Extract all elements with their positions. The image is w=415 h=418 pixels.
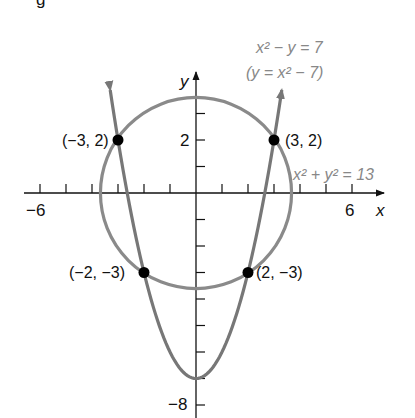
parabola-equation-label: x² − y = 7 xyxy=(255,39,324,56)
point-label-neg2-neg3: (−2, −3) xyxy=(69,264,125,281)
partial-caption-glyph: g xyxy=(36,0,45,9)
intersection-point xyxy=(139,267,150,278)
y-axis-label: y xyxy=(179,72,190,91)
y-tick-label-2: 2 xyxy=(180,131,189,150)
x-axis-label: x xyxy=(375,201,385,220)
graph-canvas: g y x −6 6 2 −8 (−3, 2) (3, 2) (−2, −3) … xyxy=(0,0,415,418)
point-label-neg3-2: (−3, 2) xyxy=(62,132,109,149)
circle-equation-label: x² + y² = 13 xyxy=(292,166,374,183)
parabola-explicit-label: (y = x² − 7) xyxy=(246,64,323,81)
y-tick-label-neg8: −8 xyxy=(168,395,187,414)
point-label-3-2: (3, 2) xyxy=(285,132,322,149)
intersection-point xyxy=(269,135,280,146)
x-tick-label-6: 6 xyxy=(345,201,354,220)
point-label-2-neg3: (2, −3) xyxy=(256,264,303,281)
intersection-point xyxy=(113,135,124,146)
intersection-point xyxy=(243,267,254,278)
x-tick-label-neg6: −6 xyxy=(26,201,45,220)
